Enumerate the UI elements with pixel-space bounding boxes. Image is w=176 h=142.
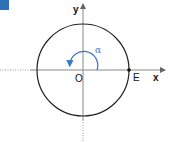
x-axis-label: x [153,73,159,83]
origin-label: O [75,74,83,84]
angle-arc [70,51,98,70]
point-e-label: E [133,73,140,83]
unit-circle-diagram [0,0,176,142]
angle-label: α [95,45,101,55]
point-e [127,68,131,72]
y-axis-label: y [73,5,79,15]
